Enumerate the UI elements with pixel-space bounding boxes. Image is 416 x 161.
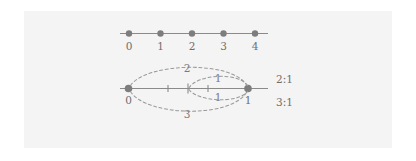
integer-label-1: 1 bbox=[157, 40, 164, 52]
integer-point-1 bbox=[157, 30, 163, 36]
integer-number-line-group: 0 1 2 3 4 bbox=[120, 30, 268, 51]
figure-root: 0 1 2 3 4 0 1 bbox=[0, 0, 416, 161]
arc-label-upper-outer: 2 bbox=[184, 62, 191, 74]
integer-label-0: 0 bbox=[126, 40, 133, 52]
integer-point-3 bbox=[220, 30, 226, 36]
ratio-label-3-1: 3:1 bbox=[276, 96, 293, 108]
unit-interval-point-1 bbox=[244, 85, 252, 93]
arc-label-lower-outer: 3 bbox=[184, 108, 191, 120]
integer-point-0 bbox=[126, 30, 132, 36]
unit-interval-point-0 bbox=[125, 85, 133, 93]
integer-label-2: 2 bbox=[189, 40, 196, 52]
arc-label-lower-inner: 1 bbox=[215, 91, 222, 103]
integer-point-2 bbox=[189, 30, 195, 36]
arc-group bbox=[131, 67, 248, 111]
integer-label-4: 4 bbox=[252, 40, 259, 52]
figure-svg: 0 1 2 3 4 0 1 bbox=[0, 0, 416, 161]
integer-point-4 bbox=[252, 30, 258, 36]
unit-interval-label-0: 0 bbox=[125, 94, 132, 106]
arc-label-upper-inner: 1 bbox=[215, 72, 222, 84]
ratio-label-group: 2:1 3:1 bbox=[276, 73, 293, 108]
unit-interval-label-1: 1 bbox=[245, 94, 252, 106]
ratio-label-2-1: 2:1 bbox=[276, 73, 293, 85]
integer-label-3: 3 bbox=[220, 40, 227, 52]
